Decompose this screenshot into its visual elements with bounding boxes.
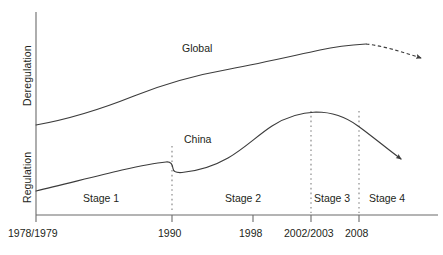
series-line-china [36,112,401,191]
chart-canvas [0,0,443,255]
figure-china-global-regulation-chart: Deregulation Regulation Global China Sta… [0,0,443,255]
x-tick-label-1978-1979: 1978/1979 [8,228,58,239]
series-line-global [36,44,366,125]
series-label-china: China [184,134,211,145]
x-tick-label-1990: 1990 [158,228,181,239]
x-tick-label-2008: 2008 [345,228,368,239]
y-axis-label-deregulation: Deregulation [22,45,33,106]
stage-label-3: Stage 3 [314,193,350,204]
stage-label-4: Stage 4 [369,193,405,204]
stage-label-2: Stage 2 [225,193,261,204]
stage-label-1: Stage 1 [83,193,119,204]
x-tick-label-1998: 1998 [239,228,262,239]
x-tick-label-2002-2003: 2002/2003 [284,228,334,239]
x-axis-ticks [36,215,359,222]
y-axis-label-regulation: Regulation [22,152,33,203]
series-label-global: Global [182,43,212,54]
series-projection-global [366,44,421,58]
